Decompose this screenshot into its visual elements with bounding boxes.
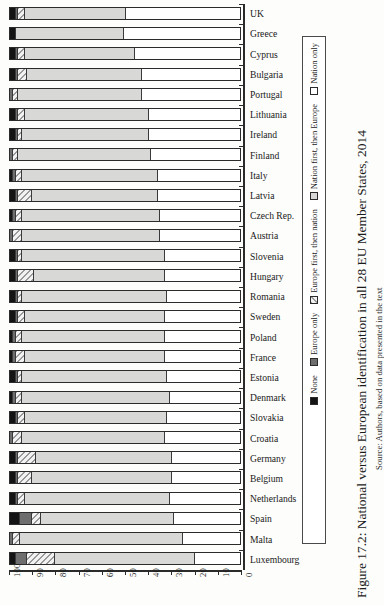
stacked-bar (9, 189, 241, 202)
category-label: Hungary (250, 272, 284, 282)
category-tick (239, 550, 243, 551)
value-tick (171, 570, 172, 575)
bar-row (9, 448, 241, 468)
category-tick (239, 307, 243, 308)
bar-segment-none (10, 513, 19, 524)
bar-row (9, 85, 241, 105)
stacked-bar (9, 330, 241, 343)
bar-segment-nat-only (157, 190, 240, 201)
legend-item-none: None (310, 375, 319, 405)
bar-row (9, 246, 241, 266)
category-tick (239, 368, 243, 369)
bar-segment-nat-only (164, 250, 240, 261)
bar-row (9, 428, 241, 448)
bar-segment-eu-nat (26, 553, 54, 564)
bar-segment-eu-nat (15, 170, 22, 181)
bar-segment-eu-nat (17, 311, 24, 322)
bar-segment-eu-nat (17, 69, 26, 80)
bar-segment-nat-eu (31, 472, 171, 483)
category-tick (239, 429, 243, 430)
category-tick (239, 105, 243, 106)
category-tick (239, 449, 243, 450)
bar-segment-nat-only (169, 392, 240, 403)
category-label: Lithuania (250, 110, 287, 120)
bar-segment-nat-only (148, 109, 240, 120)
category-label: Germany (250, 454, 286, 464)
value-tick (55, 570, 56, 575)
bar-row (9, 186, 241, 206)
category-tick (239, 125, 243, 126)
stacked-bar (9, 492, 241, 505)
legend-label: Europe only (310, 313, 319, 355)
category-tick (239, 166, 243, 167)
bar-row (9, 327, 241, 347)
bar-segment-nat-only (141, 69, 240, 80)
category-tick (239, 85, 243, 86)
bar-row (9, 287, 241, 307)
bar-segment-nat-only (123, 28, 240, 39)
bar-segment-nat-eu (24, 48, 134, 59)
legend-label: None (310, 375, 319, 394)
stacked-bar (9, 451, 241, 464)
bar-segment-nat-only (194, 553, 240, 564)
category-tick (239, 65, 243, 66)
bar-row (9, 408, 241, 428)
value-tick (148, 570, 149, 575)
category-label: Greece (250, 29, 277, 39)
category-label: Denmark (250, 393, 286, 403)
bar-segment-eu-nat (12, 533, 19, 544)
category-tick (239, 4, 243, 5)
legend-swatch-none (310, 397, 318, 405)
bar-segment-nat-eu (40, 513, 173, 524)
category-label: Portugal (250, 90, 283, 100)
value-tick (241, 570, 242, 575)
bar-row (9, 105, 241, 125)
bar-segment-nat-eu (19, 533, 182, 544)
bar-segment-nat-only (171, 452, 240, 463)
legend-label: Nation first, then Europe (310, 104, 319, 189)
stacked-bar (9, 148, 241, 161)
bar-segment-nat-eu (35, 452, 171, 463)
bar-segment-nat-eu (17, 89, 141, 100)
bar-segment-eu-nat (15, 392, 22, 403)
value-tick-label: 10 (222, 568, 231, 577)
bar-segment-eu-nat (31, 513, 40, 524)
value-tick (79, 570, 80, 575)
bar-segment-nat-eu (17, 149, 150, 160)
category-tick (239, 408, 243, 409)
bar-segment-nat-eu (24, 412, 167, 423)
bar-row (9, 206, 241, 226)
bar-row (9, 529, 241, 549)
stacked-bar (9, 128, 241, 141)
bar-segment-eu-nat (15, 351, 24, 362)
category-label: Ireland (250, 130, 277, 140)
stacked-bar (9, 7, 241, 20)
stacked-bar (9, 88, 241, 101)
stacked-bar (9, 431, 241, 444)
bar-segment-eu-nat (17, 493, 24, 504)
stacked-bar (9, 391, 241, 404)
bar-segment-eu-nat (17, 109, 24, 120)
category-tick (239, 267, 243, 268)
category-tick (239, 509, 243, 510)
bar-segment-nat-only (171, 472, 240, 483)
category-tick (239, 44, 243, 45)
category-label: Netherlands (250, 494, 296, 504)
bar-segment-nat-eu (31, 190, 158, 201)
bar-segment-eu-nat (12, 432, 21, 443)
bar-segment-nat-only (166, 291, 240, 302)
category-tick (239, 348, 243, 349)
bar-segment-nat-eu (24, 493, 169, 504)
stacked-bar (9, 249, 241, 262)
bar-segment-eu-nat (17, 8, 24, 19)
legend-item-nation-only: Nation only (310, 43, 319, 95)
category-tick (239, 247, 243, 248)
bar-row (9, 388, 241, 408)
category-tick (239, 530, 243, 531)
legend-item-europe-first: Europe first, then nation (310, 209, 319, 304)
legend-item-europe-only: Europe only (310, 313, 319, 366)
bar-segment-nat-eu (24, 311, 164, 322)
category-tick (239, 226, 243, 227)
bar-row (9, 166, 241, 186)
value-axis: 1009080706050403020100 (9, 570, 241, 572)
